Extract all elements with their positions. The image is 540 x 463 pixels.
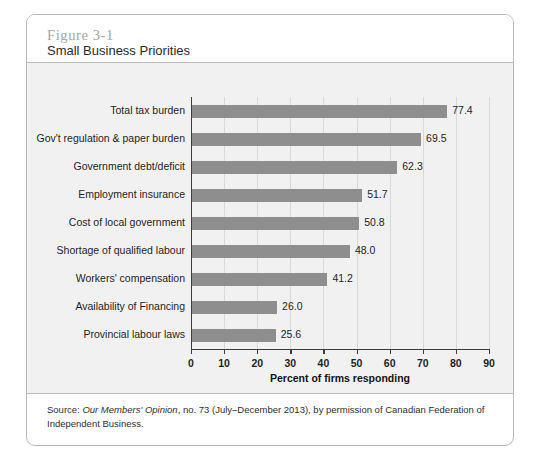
bar-value-label: 69.5: [421, 132, 446, 144]
x-tick-label: 70: [408, 357, 438, 369]
x-tick-label: 60: [375, 357, 405, 369]
bar: [191, 189, 362, 202]
x-tick-label: 40: [308, 357, 338, 369]
bar: [191, 105, 447, 118]
bar-value-label: 51.7: [362, 188, 387, 200]
bar: [191, 161, 397, 174]
bar-value-label: 48.0: [350, 244, 375, 256]
source-prefix: Source:: [47, 404, 82, 415]
x-tick-mark: [357, 349, 358, 354]
bar-row: Gov't regulation & paper burden69.5: [27, 133, 513, 146]
x-tick-label: 20: [242, 357, 272, 369]
bar: [191, 301, 277, 314]
bar-category-label: Shortage of qualified labour: [27, 244, 191, 256]
x-axis-line: [191, 349, 489, 350]
x-tick-mark: [323, 349, 324, 354]
bar-row: Provincial labour laws25.6: [27, 329, 513, 342]
bar-value-label: 62.3: [397, 160, 422, 172]
source-publication: Our Members' Opinion: [82, 404, 177, 415]
chart-panel: Total tax burden77.4Gov't regulation & p…: [27, 63, 513, 393]
x-tick-label: 0: [176, 357, 206, 369]
bar-value-label: 26.0: [277, 300, 302, 312]
x-tick-label: 90: [474, 357, 504, 369]
source-note: Source: Our Members' Opinion, no. 73 (Ju…: [47, 403, 495, 431]
bar-category-label: Employment insurance: [27, 188, 191, 200]
bar-category-label: Workers' compensation: [27, 272, 191, 284]
bar: [191, 245, 350, 258]
x-tick-label: 10: [209, 357, 239, 369]
x-tick-mark: [456, 349, 457, 354]
bar-row: Employment insurance51.7: [27, 189, 513, 202]
x-tick-mark: [390, 349, 391, 354]
figure-title: Small Business Priorities: [47, 43, 190, 58]
bar-value-label: 50.8: [359, 216, 384, 228]
note-divider: [27, 393, 513, 394]
bar-value-label: 77.4: [447, 104, 472, 116]
bar-row: Shortage of qualified labour48.0: [27, 245, 513, 258]
y-axis-line: [191, 97, 192, 349]
bar: [191, 329, 276, 342]
figure-card: Figure 3-1 Small Business Priorities Tot…: [26, 14, 514, 446]
figure-number: Figure 3-1: [47, 27, 114, 44]
x-tick-label: 30: [275, 357, 305, 369]
x-tick-label: 80: [441, 357, 471, 369]
bar-row: Workers' compensation41.2: [27, 273, 513, 286]
bar-category-label: Total tax burden: [27, 104, 191, 116]
bar-category-label: Provincial labour laws: [27, 328, 191, 340]
x-tick-mark: [224, 349, 225, 354]
bar-row: Total tax burden77.4: [27, 105, 513, 118]
x-tick-mark: [423, 349, 424, 354]
x-tick-label: 50: [342, 357, 372, 369]
bar-row: Availability of Financing26.0: [27, 301, 513, 314]
x-tick-mark: [191, 349, 192, 354]
figure-header: Figure 3-1 Small Business Priorities: [27, 15, 513, 62]
x-tick-mark: [489, 349, 490, 354]
x-tick-mark: [257, 349, 258, 354]
bar-row: Government debt/deficit62.3: [27, 161, 513, 174]
bar-value-label: 25.6: [276, 328, 301, 340]
bar-category-label: Gov't regulation & paper burden: [27, 132, 191, 144]
bar: [191, 133, 421, 146]
x-tick-mark: [290, 349, 291, 354]
bar-value-label: 41.2: [327, 272, 352, 284]
bar-category-label: Government debt/deficit: [27, 160, 191, 172]
x-axis-title: Percent of firms responding: [191, 372, 489, 384]
bar: [191, 217, 359, 230]
bar: [191, 273, 327, 286]
bar-category-label: Cost of local government: [27, 216, 191, 228]
bar-row: Cost of local government50.8: [27, 217, 513, 230]
bar-category-label: Availability of Financing: [27, 300, 191, 312]
